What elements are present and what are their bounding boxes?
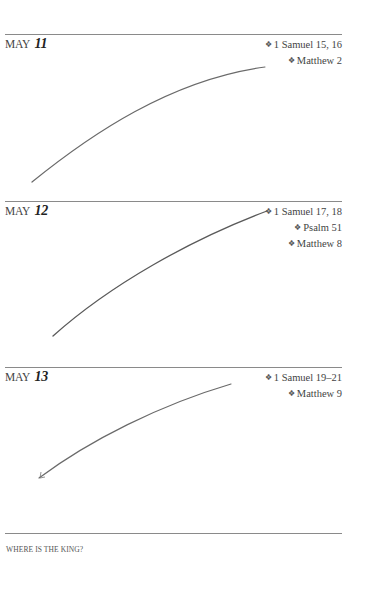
running-title: WHERE IS THE KING? bbox=[6, 545, 83, 554]
footer-rule bbox=[5, 533, 342, 534]
pen-stroke-may-12 bbox=[53, 211, 267, 336]
pen-stroke-may-11 bbox=[32, 67, 265, 182]
pen-strokes bbox=[0, 0, 369, 593]
pen-stroke-may-13 bbox=[39, 384, 231, 478]
